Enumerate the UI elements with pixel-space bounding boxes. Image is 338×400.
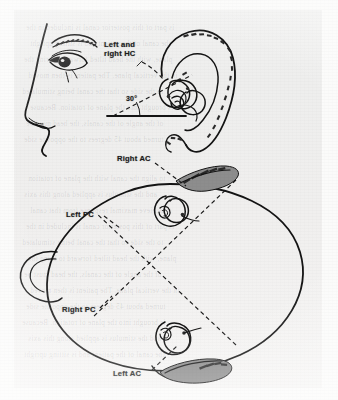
label-hc-line-1: Left and <box>104 40 136 49</box>
hc-label-leader-line <box>142 62 163 79</box>
iris <box>58 57 70 68</box>
eyebrow-hatching <box>55 39 97 47</box>
right-ac-leader-line <box>155 163 186 186</box>
superior-top-view <box>21 163 303 383</box>
figure-container: is part of this posterior canal is inclu… <box>0 0 338 400</box>
labyrinth-superior-lower <box>156 322 201 355</box>
thirty-degree-dashed-line <box>113 75 192 116</box>
label-left-ac: Left AC <box>113 369 141 378</box>
pupil-highlight <box>61 59 65 62</box>
cheek-stroke <box>72 70 77 78</box>
figure-artwork: .ln{fill:none;stroke:#141414;stroke-line… <box>0 0 338 400</box>
label-right-ac: Right AC <box>117 154 151 163</box>
ampulla-marker <box>186 87 189 90</box>
pinna-antihelix <box>172 54 218 131</box>
label-angle-30-degrees: 30° <box>126 95 137 104</box>
face-profile-outline <box>25 24 49 156</box>
angle-arc <box>137 103 140 117</box>
label-hc-line-2: right HC <box>104 49 136 58</box>
hc-leader-tick <box>137 61 142 66</box>
labyrinth-lateral <box>160 79 206 115</box>
right-pc-leader-line <box>100 296 112 308</box>
pinna-superior-left-inner <box>30 259 56 292</box>
left-pc-leader-line <box>104 216 120 228</box>
label-left-and-right-hc: Left and right HC <box>104 40 136 59</box>
left-ac-plane-dashed-line <box>96 213 236 345</box>
label-left-pc: Left PC <box>66 210 94 219</box>
pinna-rim-shading <box>166 33 233 145</box>
right-ac-plane-dashed-line <box>92 180 236 318</box>
label-right-pc: Right PC <box>62 305 96 314</box>
eye-lash-stroke <box>66 72 69 82</box>
ampulla-marker <box>167 95 171 99</box>
